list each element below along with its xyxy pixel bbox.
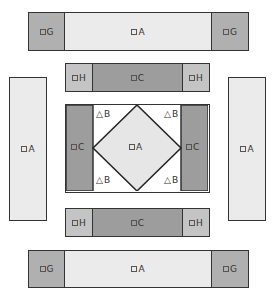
square-icon (72, 75, 78, 81)
piece-b-bottom-right: △B (164, 175, 178, 185)
piece-label: C (78, 142, 84, 152)
piece-h-top-right: H (182, 63, 210, 92)
piece-g-bottom-right: G (211, 250, 249, 288)
piece-a-right-side: A (228, 77, 266, 221)
piece-a-left-side: A (9, 77, 47, 221)
square-icon (131, 29, 137, 35)
bottom-inner-strip: H C H (65, 208, 210, 237)
square-icon (129, 144, 135, 150)
piece-label: B (104, 175, 110, 185)
piece-c-center-left: C (71, 142, 84, 152)
piece-a-top: A (65, 12, 211, 51)
triangle-icon: △ (164, 175, 171, 185)
piece-label: A (138, 264, 144, 274)
bottom-border-strip: G A G (28, 250, 249, 288)
square-icon (71, 144, 77, 150)
square-icon (189, 75, 195, 81)
square-icon (240, 146, 246, 152)
square-icon (131, 75, 137, 81)
square-icon (189, 220, 195, 226)
triangle-icon: △ (96, 175, 103, 185)
piece-h-bottom-left: H (65, 208, 93, 237)
piece-c-center-right: C (186, 142, 199, 152)
square-icon (131, 220, 137, 226)
square-icon (186, 144, 192, 150)
triangle-icon: △ (164, 109, 171, 119)
piece-label: G (230, 27, 237, 37)
square-icon (223, 266, 229, 272)
square-icon (40, 266, 46, 272)
square-icon (40, 29, 46, 35)
piece-label: G (230, 264, 237, 274)
piece-a-diamond: A (129, 142, 142, 152)
piece-label: B (104, 109, 110, 119)
piece-c-bottom: C (93, 208, 182, 237)
piece-g-top-left: G (28, 12, 65, 51)
piece-label: G (47, 27, 54, 37)
piece-label: H (79, 218, 86, 228)
piece-label: A (136, 142, 142, 152)
piece-label: C (138, 73, 144, 83)
center-block: C C A △B △B △B △B (65, 104, 210, 193)
triangle-icon: △ (96, 109, 103, 119)
piece-label: H (196, 218, 203, 228)
piece-label: H (79, 73, 86, 83)
square-icon (131, 266, 137, 272)
piece-c-top: C (93, 63, 182, 92)
piece-label: B (172, 175, 178, 185)
piece-label: A (28, 144, 34, 154)
piece-g-bottom-left: G (28, 250, 65, 288)
piece-b-bottom-left: △B (96, 175, 110, 185)
piece-h-bottom-right: H (182, 208, 210, 237)
top-border-strip: G A G (28, 12, 249, 51)
square-icon (223, 29, 229, 35)
piece-g-top-right: G (211, 12, 249, 51)
piece-label: A (247, 144, 253, 154)
piece-label: H (196, 73, 203, 83)
piece-label: C (193, 142, 199, 152)
piece-h-top-left: H (65, 63, 93, 92)
piece-b-top-left: △B (96, 109, 110, 119)
piece-b-top-right: △B (164, 109, 178, 119)
piece-label: A (138, 27, 144, 37)
piece-label: B (172, 109, 178, 119)
piece-label: G (47, 264, 54, 274)
square-icon (72, 220, 78, 226)
piece-label: C (138, 218, 144, 228)
square-icon (21, 146, 27, 152)
piece-a-bottom: A (65, 250, 211, 288)
top-inner-strip: H C H (65, 63, 210, 92)
